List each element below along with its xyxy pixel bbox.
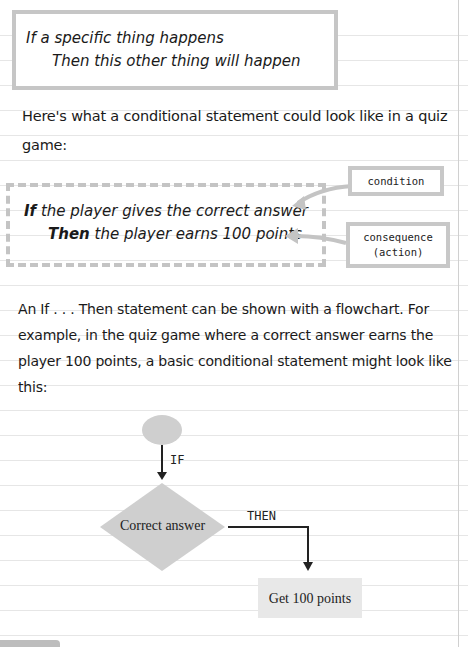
page-tab: [0, 640, 60, 647]
if-arrowhead: [157, 472, 167, 480]
then-connector: [228, 527, 308, 566]
start-node: [142, 415, 182, 445]
if-label: IF: [170, 453, 184, 467]
then-arrowhead: [303, 562, 313, 571]
then-label: THEN: [247, 509, 276, 523]
flowchart: [0, 0, 468, 647]
action-label: Get 100 points: [258, 591, 362, 607]
decision-label: Correct answer: [100, 518, 225, 534]
